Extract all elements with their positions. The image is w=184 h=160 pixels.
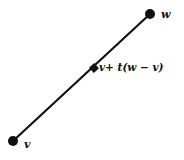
diagram-canvas: w v+ t(w − v) v [0,0,184,160]
endpoint-v-label: v [24,139,30,150]
intermediate-point-square-icon [89,63,99,73]
endpoint-v-dot-icon [8,136,18,146]
segment-line [13,14,150,141]
endpoint-w-label: w [161,9,170,20]
line-segment-figure [0,0,184,160]
intermediate-point-label: v+ t(w − v) [99,62,164,73]
endpoint-w-dot-icon [145,9,155,19]
